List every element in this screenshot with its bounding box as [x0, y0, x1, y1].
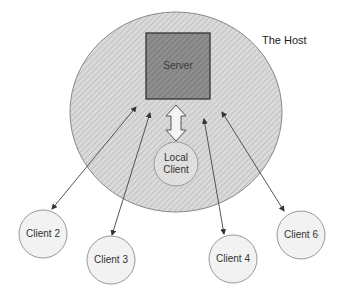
local-client-label-line1: Local [154, 152, 198, 164]
local-client-label-line2: Client [154, 164, 198, 176]
client6-label: Client 6 [271, 229, 331, 241]
server-label: Server [146, 60, 210, 72]
client2-label: Client 2 [13, 228, 73, 240]
client3-label: Client 3 [81, 254, 141, 266]
client4-label: Client 4 [203, 253, 263, 265]
host-label: The Host [262, 34, 322, 46]
